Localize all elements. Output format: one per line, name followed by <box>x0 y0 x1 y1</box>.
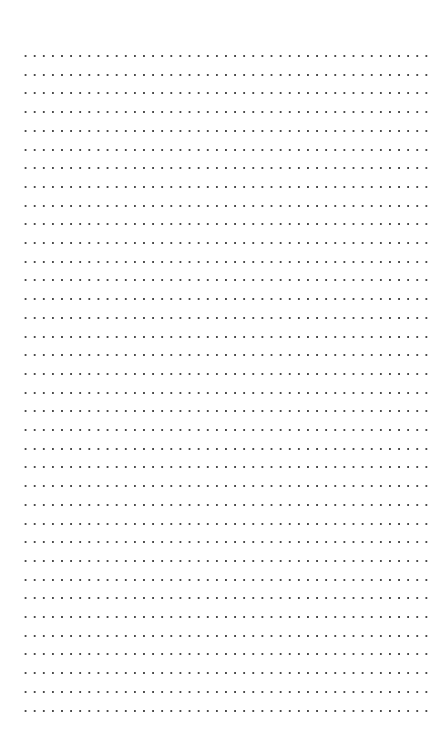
dot-row <box>21 261 431 263</box>
dot-row <box>21 298 431 300</box>
dot-row <box>21 373 431 375</box>
dot-row <box>21 523 431 525</box>
dot-row <box>21 541 431 543</box>
dot-row <box>21 597 431 599</box>
dot-row <box>21 167 431 169</box>
dot-row <box>21 242 431 244</box>
dot-row <box>21 223 431 225</box>
dot-row <box>21 691 431 693</box>
dot-row <box>21 560 431 562</box>
dot-row <box>21 504 431 506</box>
dot-row <box>21 336 431 338</box>
dot-row <box>21 279 431 281</box>
dot-row <box>21 466 431 468</box>
dot-row <box>21 429 431 431</box>
dot-row <box>21 92 431 94</box>
dot-row <box>21 410 431 412</box>
dot-row <box>21 579 431 581</box>
dot-grid <box>21 55 431 727</box>
dot-row <box>21 317 431 319</box>
dot-row <box>21 653 431 655</box>
dot-row <box>21 130 431 132</box>
dot-row <box>21 354 431 356</box>
dot-row <box>21 55 431 57</box>
dot-row <box>21 672 431 674</box>
dot-row <box>21 205 431 207</box>
dot-row <box>21 186 431 188</box>
dot-row <box>21 149 431 151</box>
dot-row <box>21 485 431 487</box>
dot-row <box>21 74 431 76</box>
dot-row <box>21 635 431 637</box>
dot-row <box>21 392 431 394</box>
dot-row <box>21 111 431 113</box>
dot-row <box>21 710 431 712</box>
dot-row <box>21 616 431 618</box>
dot-row <box>21 448 431 450</box>
